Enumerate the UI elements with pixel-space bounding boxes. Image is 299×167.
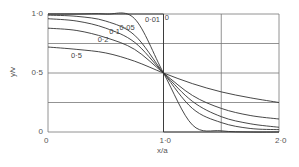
- curve-label: 0·2: [98, 36, 109, 44]
- y-tick-label: 0·5: [31, 69, 43, 77]
- x-axis-label: x/a: [157, 147, 168, 155]
- x-tick-label: 2·0: [275, 137, 287, 145]
- x-tick-label: 0: [44, 137, 48, 145]
- curve-label: 0·05: [120, 24, 135, 32]
- x-tick-label: 1·0: [160, 137, 172, 145]
- y-tick-label: 1·0: [31, 10, 43, 18]
- y-tick-label: 0: [39, 128, 43, 136]
- curve-label: 0·01: [145, 16, 160, 24]
- curve-label: 0: [165, 14, 169, 22]
- y-axis-label: y/v: [9, 67, 17, 77]
- curve-label: 0·1: [109, 28, 120, 36]
- curve-label: 0·5: [71, 52, 82, 60]
- data-series: [48, 13, 279, 132]
